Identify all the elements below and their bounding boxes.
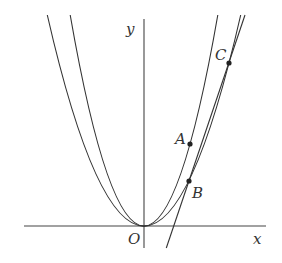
point-b <box>186 178 191 183</box>
point-a-label: A <box>173 130 186 148</box>
point-c <box>226 60 231 65</box>
point-a <box>187 141 192 146</box>
y-axis-label: y <box>125 20 135 38</box>
point-b-label: B <box>191 184 203 202</box>
point-c-label: C <box>215 46 227 64</box>
coordinate-diagram: y x O A B C <box>0 0 282 263</box>
origin-label: O <box>128 230 140 248</box>
x-axis-label: x <box>253 230 262 248</box>
